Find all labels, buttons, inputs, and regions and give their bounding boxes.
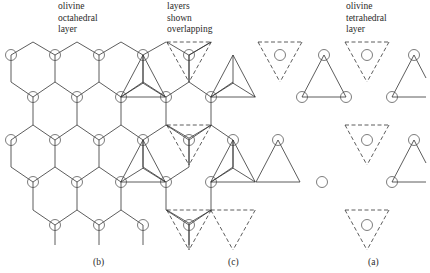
cation-circles [6,50,420,231]
olivine-layer-diagram [0,0,430,273]
tetrahedral-triangles [121,42,426,250]
octahedral-honeycomb-net [11,42,233,245]
